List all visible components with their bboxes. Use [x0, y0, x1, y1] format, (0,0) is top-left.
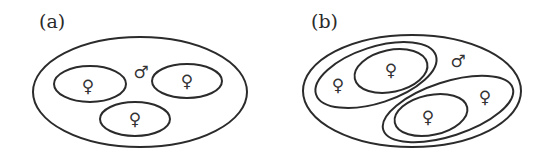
panel-a-label: (a) — [39, 10, 65, 32]
panel-b: (b) ♂ ♀ ♀ ♀ ♀ — [303, 10, 521, 156]
female-icon: ♀ — [479, 87, 491, 107]
panel-b-label: (b) — [311, 10, 338, 32]
male-icon: ♂ — [133, 62, 148, 82]
female-icon: ♀ — [385, 60, 397, 80]
female-icon: ♀ — [181, 71, 193, 91]
diagram-canvas: (a) ♂ ♀ ♀ ♀ (b) ♂ ♀ ♀ ♀ ♀ — [0, 0, 550, 159]
female-icon: ♀ — [332, 75, 344, 95]
panel-a: (a) ♂ ♀ ♀ ♀ — [33, 10, 247, 147]
female-icon: ♀ — [129, 109, 141, 129]
female-icon: ♀ — [422, 107, 434, 127]
female-icon: ♀ — [82, 76, 94, 96]
male-icon: ♂ — [450, 51, 465, 71]
